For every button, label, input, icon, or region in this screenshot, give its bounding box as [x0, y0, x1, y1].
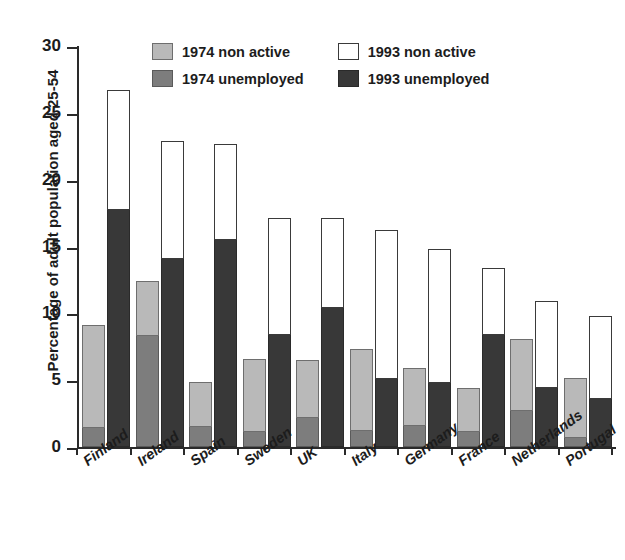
segment-1993-unemployed — [214, 240, 237, 447]
x-tick-mark — [237, 448, 239, 455]
segment-1993-unemployed — [107, 210, 130, 447]
bar-1993-uk[interactable] — [321, 218, 344, 447]
segment-1993-unemployed — [161, 259, 184, 447]
y-tick-label: 25 — [42, 103, 61, 123]
y-tick-label: 5 — [52, 370, 61, 390]
bar-1974-italy[interactable] — [350, 349, 373, 447]
segment-1974-non-active — [510, 339, 533, 411]
bar-1993-ireland[interactable] — [161, 141, 184, 447]
bar-1974-spain[interactable] — [189, 382, 212, 447]
x-tick-mark — [183, 448, 185, 455]
x-tick-mark — [397, 448, 399, 455]
y-tick-mark: 30 — [67, 47, 78, 49]
segment-1993-non-active — [214, 144, 237, 240]
bar-1993-spain[interactable] — [214, 144, 237, 447]
x-tick-mark — [130, 448, 132, 455]
bar-1974-ireland[interactable] — [136, 281, 159, 447]
bar-1974-germany[interactable] — [403, 368, 426, 447]
x-tick-mark — [451, 448, 453, 455]
y-tick-label: 0 — [52, 437, 61, 457]
bar-1993-germany[interactable] — [428, 249, 451, 447]
y-tick-mark: 10 — [67, 314, 78, 316]
bar-1974-finland[interactable] — [82, 325, 105, 447]
y-tick-mark: 25 — [67, 114, 78, 116]
bar-1993-sweden[interactable] — [268, 218, 291, 447]
y-axis-title: Percentage of adult population aged 25-5… — [44, 21, 61, 421]
x-tick-mark — [558, 448, 560, 455]
segment-1993-unemployed — [321, 308, 344, 447]
bar-1993-finland[interactable] — [107, 90, 130, 447]
y-tick-mark: 5 — [67, 381, 78, 383]
x-tick-mark — [344, 448, 346, 455]
y-tick-mark: 15 — [67, 248, 78, 250]
y-tick-label: 30 — [42, 36, 61, 56]
segment-1993-non-active — [321, 218, 344, 308]
segment-1993-non-active — [161, 141, 184, 259]
segment-1974-non-active — [136, 281, 159, 336]
segment-1974-non-active — [296, 360, 319, 417]
segment-1974-non-active — [189, 382, 212, 427]
x-tick-mark — [504, 448, 506, 455]
y-tick-label: 10 — [42, 303, 61, 323]
segment-1993-unemployed — [375, 379, 398, 447]
segment-1993-non-active — [482, 268, 505, 335]
segment-1974-unemployed — [296, 418, 319, 447]
bar-1993-italy[interactable] — [375, 230, 398, 447]
bar-chart-figure: Percentage of adult population aged 25-5… — [0, 0, 625, 560]
bar-1993-france[interactable] — [482, 268, 505, 447]
segment-1974-unemployed — [136, 336, 159, 447]
bar-1974-sweden[interactable] — [243, 359, 266, 447]
y-tick-mark: 20 — [67, 181, 78, 183]
x-tick-mark — [76, 448, 78, 455]
segment-1974-non-active — [243, 359, 266, 433]
x-tick-mark — [611, 448, 613, 455]
segment-1993-non-active — [268, 218, 291, 334]
y-tick-label: 15 — [42, 237, 61, 257]
bar-1974-france[interactable] — [457, 388, 480, 447]
segment-1974-non-active — [82, 325, 105, 428]
segment-1993-non-active — [375, 230, 398, 378]
plot-area: 051015202530 FinlandIrelandSpainSwedenUK… — [78, 46, 616, 448]
segment-1974-non-active — [457, 388, 480, 432]
segment-1974-non-active — [403, 368, 426, 425]
bar-1974-netherlands[interactable] — [510, 339, 533, 447]
segment-1993-non-active — [535, 301, 558, 388]
segment-1974-non-active — [350, 349, 373, 431]
bar-1974-uk[interactable] — [296, 360, 319, 447]
segment-1993-non-active — [428, 249, 451, 383]
x-tick-mark — [290, 448, 292, 455]
y-tick-label: 20 — [42, 170, 61, 190]
segment-1993-non-active — [589, 316, 612, 399]
segment-1993-non-active — [107, 90, 130, 210]
